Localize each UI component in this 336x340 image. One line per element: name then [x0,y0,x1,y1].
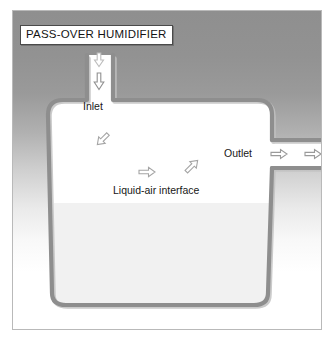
outlet-label: Outlet [224,147,252,159]
humidifier-schematic [0,0,336,340]
humidifier-figure: PASS-OVER HUMIDIFIER Inlet Outlet Liquid… [0,0,336,340]
liquid-air-interface-label: Liquid-air interface [113,184,199,196]
diagram-title: PASS-OVER HUMIDIFIER [20,25,173,45]
inlet-label: Inlet [83,100,103,112]
liquid-pool [52,203,270,305]
